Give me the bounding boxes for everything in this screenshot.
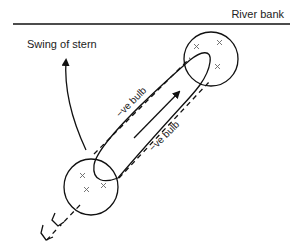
negative-bulb-label-lower: −ve bulb [147, 118, 182, 153]
wake-mark-icon [41, 225, 53, 240]
propeller-wake [41, 205, 80, 243]
cross-mark-icon [80, 173, 85, 178]
river-bank-label: River bank [231, 8, 284, 20]
cross-mark-icon [215, 64, 220, 69]
stern-swing-arrow [66, 60, 86, 150]
stern-cross-marks [80, 173, 106, 192]
wake-mark-icon [52, 213, 64, 226]
cross-mark-icon [101, 183, 106, 188]
cross-mark-icon [84, 187, 89, 192]
ship-hull-outline [94, 53, 210, 181]
ship-bank-interaction-diagram: River bank Swing of stern −ve bulb −ve b… [0, 0, 305, 252]
cross-mark-icon [217, 40, 222, 45]
swing-of-stern-label: Swing of stern [27, 38, 97, 50]
stern-circle [64, 159, 118, 215]
cross-mark-icon [194, 44, 199, 49]
